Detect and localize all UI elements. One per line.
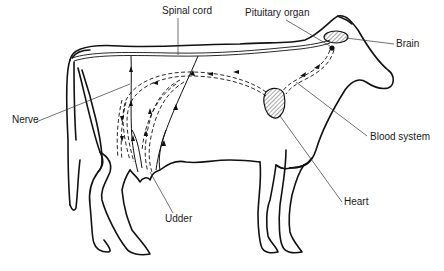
label-pituitary-organ: Pituitary organ [245,7,309,19]
spinal-cord [72,40,330,61]
flow-arrows [120,64,320,146]
label-nerve: Nerve [12,114,39,126]
label-brain: Brain [396,38,419,50]
nerves [131,56,198,172]
brain-shape [324,31,348,43]
label-heart: Heart [344,196,368,208]
heart-shape [264,88,285,118]
label-udder: Udder [165,213,192,225]
pituitary-organ-dot [329,45,334,50]
label-spinal-cord: Spinal cord [162,5,212,17]
label-blood-system: Blood system [370,131,430,143]
